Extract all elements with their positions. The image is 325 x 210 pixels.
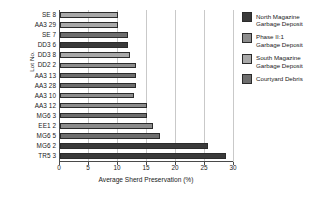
y-axis-tick-label: DD3 8	[8, 50, 56, 60]
bar-row	[60, 20, 233, 30]
legend-swatch	[242, 33, 252, 43]
bar-chart: Lot No. SE 8AA3 29SE 7DD3 6DD3 8DD2 2AA3…	[0, 0, 325, 210]
x-axis-tick-label: 30	[229, 164, 236, 171]
y-axis-tick-labels: SE 8AA3 29SE 7DD3 6DD3 8DD2 2AA3 13AA3 2…	[8, 10, 56, 161]
y-axis-tick-label: EE1 2	[8, 121, 56, 131]
bar-row	[60, 91, 233, 101]
y-axis-tick-label: DD2 2	[8, 60, 56, 70]
bar-series	[60, 10, 233, 161]
bar-row	[60, 60, 233, 70]
y-axis-tick-label: AA3 10	[8, 91, 56, 101]
y-axis-tick-label: DD3 6	[8, 40, 56, 50]
bar-row	[60, 30, 233, 40]
bar	[60, 143, 208, 149]
y-axis-tick-label: SE 8	[8, 10, 56, 20]
legend-label: North Magazine Garbage Deposit	[256, 12, 303, 27]
bar-row	[60, 151, 233, 161]
y-axis-tick-label: TR5 3	[8, 151, 56, 161]
x-axis-title: Average Sherd Preservation (%)	[59, 176, 233, 183]
legend-swatch	[242, 54, 252, 64]
legend-item: North Magazine Garbage Deposit	[242, 12, 324, 27]
bar	[60, 123, 153, 129]
legend-label: Courtyard Debris	[256, 74, 303, 82]
x-axis-tick-label: 25	[200, 164, 207, 171]
legend-label: South Magazine Garbage Deposit	[256, 54, 303, 69]
y-axis-tick-label: SE 7	[8, 30, 56, 40]
y-axis-tick-label: AA3 29	[8, 20, 56, 30]
bar-row	[60, 40, 233, 50]
bar	[60, 93, 134, 99]
bar-row	[60, 101, 233, 111]
y-axis-tick-label: MG6 3	[8, 111, 56, 121]
x-axis-tick-label: 15	[142, 164, 149, 171]
gridline	[233, 10, 234, 162]
bar	[60, 153, 226, 159]
bar	[60, 83, 136, 89]
bar	[60, 12, 118, 18]
bar-row	[60, 70, 233, 80]
chart-legend: North Magazine Garbage DepositPhase II:1…	[242, 12, 324, 90]
legend-item: South Magazine Garbage Deposit	[242, 54, 324, 69]
x-axis-tick-label: 5	[86, 164, 90, 171]
y-axis-tick-label: AA3 12	[8, 101, 56, 111]
bar	[60, 103, 147, 109]
y-axis-tick-label: AA3 13	[8, 71, 56, 81]
bar	[60, 22, 118, 28]
bar-row	[60, 50, 233, 60]
x-axis-tick-label: 10	[113, 164, 120, 171]
bar	[60, 32, 128, 38]
plot-area	[59, 10, 233, 162]
bar-row	[60, 141, 233, 151]
bar-row	[60, 111, 233, 121]
y-axis-tick-label: MG6 2	[8, 141, 56, 151]
bar	[60, 42, 128, 48]
legend-swatch	[242, 12, 252, 22]
legend-label: Phase II:1 Garbage Deposit	[256, 33, 303, 48]
bar-row	[60, 10, 233, 20]
y-axis-tick-label: MG6 5	[8, 131, 56, 141]
legend-item: Phase II:1 Garbage Deposit	[242, 33, 324, 48]
bar-row	[60, 80, 233, 90]
y-axis-tick-label: AA3 28	[8, 81, 56, 91]
legend-item: Courtyard Debris	[242, 74, 324, 84]
bar-row	[60, 121, 233, 131]
bar	[60, 73, 136, 79]
bar	[60, 133, 160, 139]
x-axis-tick-label: 0	[57, 164, 61, 171]
bar	[60, 63, 136, 69]
x-axis-tick-label: 20	[171, 164, 178, 171]
legend-swatch	[242, 74, 252, 84]
bar	[60, 52, 130, 58]
bar	[60, 113, 147, 119]
bar-row	[60, 131, 233, 141]
